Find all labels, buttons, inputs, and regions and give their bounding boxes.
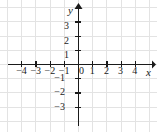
y-axis-arrowhead bbox=[75, 3, 83, 9]
x-tick-label: 4 bbox=[130, 66, 140, 76]
y-tick-label: −3 bbox=[54, 102, 65, 112]
x-tick-label: 2 bbox=[101, 66, 111, 76]
y-axis-label: y bbox=[68, 5, 73, 16]
x-axis-label: x bbox=[146, 67, 151, 78]
y-tick-label: 2 bbox=[58, 36, 69, 46]
x-tick-label: 1 bbox=[87, 66, 97, 76]
origin-label: 0 bbox=[79, 66, 84, 76]
y-tick-label: 3 bbox=[58, 21, 69, 31]
x-axis-arrowhead bbox=[152, 61, 156, 69]
x-tick-label: −3 bbox=[30, 66, 40, 76]
y-tick-label: −1 bbox=[54, 73, 65, 83]
y-tick-label: 1 bbox=[58, 50, 69, 60]
coordinate-plane-figure: −4−3−2−11234 321−1−2−3 0 x y bbox=[0, 0, 157, 132]
y-tick-label: −2 bbox=[54, 87, 65, 97]
x-tick-label: 3 bbox=[116, 66, 126, 76]
x-tick-label: −4 bbox=[16, 66, 26, 76]
